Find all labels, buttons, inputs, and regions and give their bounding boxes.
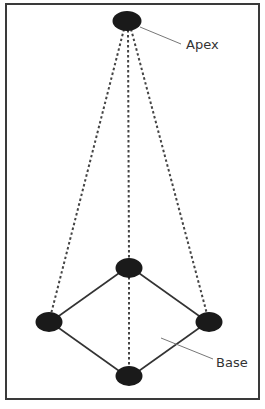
base-left-node bbox=[36, 312, 63, 332]
apex-node bbox=[113, 11, 142, 31]
dashed-edges bbox=[51, 29, 207, 368]
apex-label: Apex bbox=[186, 37, 219, 52]
edge-right-front bbox=[136, 326, 202, 373]
base-label: Base bbox=[216, 355, 248, 370]
base-leader-line bbox=[161, 338, 213, 359]
base-right-node bbox=[196, 312, 223, 332]
base-back-node bbox=[116, 258, 143, 278]
pyramid-diagram: Apex Base bbox=[0, 0, 265, 409]
dashed-edge-apex-right bbox=[131, 29, 207, 314]
apex-leader-line bbox=[140, 27, 181, 44]
base-front-node bbox=[116, 366, 143, 386]
dashed-edge-apex-back bbox=[128, 30, 129, 260]
dashed-edge-apex-left bbox=[51, 29, 124, 314]
edge-left-front bbox=[56, 326, 122, 373]
edge-back-right bbox=[136, 271, 202, 318]
edge-back-left bbox=[56, 271, 122, 318]
